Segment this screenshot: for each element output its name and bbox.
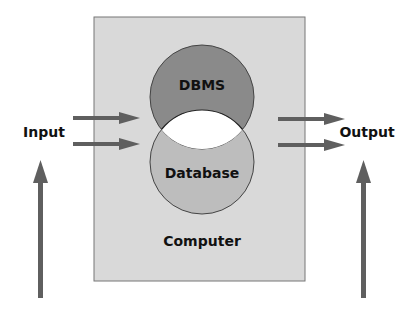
dbms-diagram: DBMS Database Computer Input Output	[0, 0, 416, 313]
input-label: Input	[23, 124, 65, 140]
output-label: Output	[339, 124, 395, 140]
output-up-arrow	[356, 160, 371, 298]
input-up-arrow	[33, 160, 48, 298]
dbms-label: DBMS	[179, 77, 225, 93]
database-label: Database	[165, 165, 240, 181]
computer-label: Computer	[163, 233, 241, 249]
